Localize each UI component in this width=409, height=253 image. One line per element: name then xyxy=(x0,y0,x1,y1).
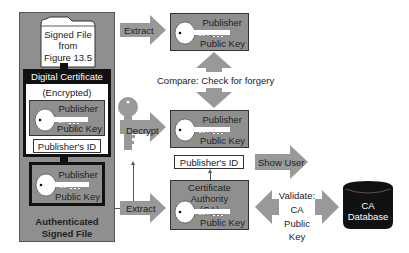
ca-database-label: CA Database xyxy=(342,200,394,223)
show-user-label: Show User xyxy=(258,157,304,168)
folder-text-line3: Figure 13.5 xyxy=(40,52,96,63)
key-bottom-label: Public Key xyxy=(57,123,102,134)
extract-top-label: Extract xyxy=(124,25,154,36)
decrypt-label: Decrypt xyxy=(126,125,159,136)
validate-line1: Validate: xyxy=(276,189,318,203)
ca-to-id-line xyxy=(210,172,211,180)
key-bottom-label: Public Key xyxy=(200,217,245,228)
extract-bottom-label: Extract xyxy=(126,203,156,214)
folder-text-line1: Signed File xyxy=(40,29,96,40)
db-line1: CA xyxy=(342,200,394,211)
extracted-publisher-key-box: Publisher Public Key xyxy=(170,13,249,51)
certificate-authority-box: Certificate Authority (CA) Public Key xyxy=(170,180,249,230)
certificate-publisher-key-box: Publisher Public Key xyxy=(29,100,105,136)
arrowhead-icon xyxy=(131,161,135,165)
arrowhead-icon xyxy=(208,169,212,173)
validate-line3: Public Key xyxy=(276,217,318,245)
caption-line1: Authenticated xyxy=(19,216,115,228)
validate-line2: CA xyxy=(276,203,318,217)
encrypted-label: (Encrypted) xyxy=(23,88,111,98)
caption-line2: Signed File xyxy=(19,228,115,240)
authenticated-signed-file-caption: Authenticated Signed File xyxy=(19,216,115,240)
publisher-id-box: Publisher's ID xyxy=(174,155,244,169)
db-line2: Database xyxy=(342,211,394,222)
key-bottom-label: Public Key xyxy=(55,191,100,202)
key-bottom-label: Public Key xyxy=(200,135,245,146)
validate-label: Validate: CA Public Key xyxy=(276,189,318,244)
decrypted-publisher-key-box: Publisher Public Key xyxy=(170,110,249,148)
digital-certificate-header: Digital Certificate xyxy=(23,69,111,84)
compare-label: Compare: Check for forgery xyxy=(157,75,274,86)
folder-cert-connector xyxy=(60,63,68,70)
folder-text-line2: from xyxy=(40,40,96,51)
certificate-publisher-id-box: Publisher's ID xyxy=(33,139,101,153)
key-top-label: Publisher xyxy=(202,17,242,28)
key-top-label: Publisher xyxy=(202,114,242,125)
signed-file-publisher-key-box: Publisher Public Key xyxy=(29,162,105,206)
key-top-label: Publisher xyxy=(58,169,98,180)
signed-file-label: Signed File from Figure 13.5 xyxy=(40,29,96,63)
key-top-label: Publisher xyxy=(58,103,98,114)
key-bottom-label: Public Key xyxy=(200,38,245,49)
